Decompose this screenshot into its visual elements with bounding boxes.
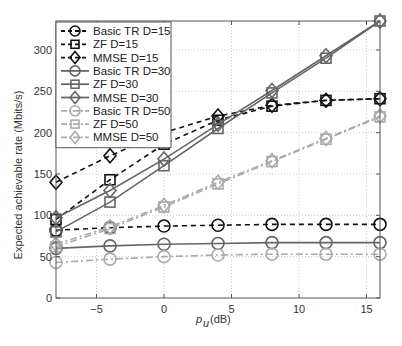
legend-label: ZF D=15: [93, 38, 138, 50]
x-tick-label: −5: [90, 303, 103, 315]
x-axis-label: p u (dB): [195, 313, 231, 329]
line-chart: −5051015050100150200250300 Basic TR D=15…: [0, 0, 402, 346]
legend-item: Basic TR D=50: [61, 105, 170, 117]
legend-item: Basic TR D=30: [61, 65, 170, 77]
y-tick-label: 300: [34, 44, 52, 56]
x-axis-label-var: p: [195, 313, 202, 325]
legend-item: MMSE D=15: [61, 52, 159, 64]
legend-label: MMSE D=30: [93, 92, 159, 104]
legend: Basic TR D=15ZF D=15MMSE D=15Basic TR D=…: [56, 22, 171, 148]
legend-label: Basic TR D=30: [93, 65, 170, 77]
legend-item: MMSE D=30: [61, 92, 159, 104]
legend-label: MMSE D=15: [93, 52, 159, 64]
legend-label: ZF D=30: [93, 78, 138, 90]
x-tick-label: 0: [161, 303, 167, 315]
legend-item: ZF D=30: [61, 78, 138, 90]
legend-label: MMSE D=50: [93, 131, 159, 143]
y-tick-label: 250: [34, 85, 52, 97]
x-axis-label-unit: (dB): [210, 313, 231, 325]
legend-label: ZF D=50: [93, 118, 138, 130]
legend-label: Basic TR D=50: [93, 105, 170, 117]
x-axis-label-sub: u: [203, 317, 209, 329]
y-axis-label: Expected achievable rate (Mbits/s): [12, 91, 24, 260]
y-tick-label: 150: [34, 168, 52, 180]
series-basic-tr-d-15: [50, 218, 386, 236]
series-basic-tr-d-30: [50, 237, 386, 255]
x-tick-label: 10: [293, 303, 305, 315]
series-basic-tr-d-50: [50, 248, 386, 268]
legend-label: Basic TR D=15: [93, 25, 170, 37]
diamond-marker: [104, 149, 116, 163]
legend-item: Basic TR D=15: [61, 25, 170, 37]
x-tick-label: 15: [360, 303, 372, 315]
y-tick-label: 0: [46, 292, 52, 304]
y-tick-label: 200: [34, 127, 52, 139]
y-tick-label: 50: [40, 251, 52, 263]
y-tick-label: 100: [34, 209, 52, 221]
diamond-marker: [212, 175, 224, 189]
legend-item: MMSE D=50: [61, 131, 159, 143]
